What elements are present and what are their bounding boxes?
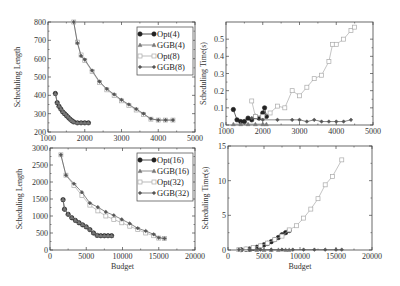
y-tick-label: 500: [34, 73, 46, 82]
x-tick-label: 15000: [326, 252, 346, 261]
legend-entry: GGB(4): [157, 40, 185, 50]
x-tick-label: 5000: [256, 252, 272, 261]
y-tick-label: 2500: [32, 161, 48, 170]
x-tick-label: 2000: [255, 127, 271, 136]
y-tick-label: 1000: [32, 212, 48, 221]
x-tick-label: 4000: [328, 127, 344, 136]
y-tick-label: 0.1: [214, 104, 224, 113]
chart-panel-3: 0500010000150002000005001000150020002500…: [15, 144, 205, 271]
y-tick-label: 10: [218, 177, 226, 186]
legend-entry: GGB(16): [157, 166, 189, 176]
y-tick-label: 200: [34, 128, 46, 137]
x-tick-label: 2000: [77, 134, 93, 143]
x-tick-label: 5000: [78, 252, 94, 261]
y-tick-label: 1500: [32, 195, 48, 204]
y-tick-label: 0: [44, 246, 48, 255]
legend-entry: GGB(8): [157, 62, 185, 72]
y-tick-label: 500: [36, 229, 48, 238]
y-tick-label: 0.4: [214, 52, 224, 61]
x-tick-label: 4000: [150, 134, 166, 143]
legend-entry: Opt(16): [157, 155, 184, 165]
x-tick-label: 20000: [185, 252, 205, 261]
y-tick-label: 700: [34, 36, 46, 45]
y-tick-label: 300: [34, 110, 46, 119]
x-tick-label: 5000: [187, 134, 203, 143]
x-axis-label: Budget: [111, 262, 135, 271]
legend-entry: Opt(8): [157, 51, 180, 61]
x-tick-label: 10000: [290, 252, 310, 261]
y-tick-label: 0.2: [214, 87, 224, 96]
y-axis-label: Scheduling Time(s): [201, 166, 210, 229]
y-axis-label: Scheduling Length: [13, 47, 22, 108]
x-tick-label: 3000: [114, 134, 130, 143]
legend-entry: Opt(32): [157, 177, 184, 187]
series-opt8: [250, 25, 357, 118]
x-tick-label: 0: [226, 252, 230, 261]
y-tick-label: 2000: [32, 178, 48, 187]
x-axis-label: Budget: [288, 262, 312, 271]
y-tick-label: 0.5: [214, 35, 224, 44]
chart-panel-2: 1000200030004000500000.10.20.30.40.5Sche…: [199, 22, 381, 136]
x-tick-label: 3000: [292, 127, 308, 136]
figure: 1000200030004000500020030040050060070080…: [0, 0, 400, 286]
y-tick-label: 5: [222, 211, 226, 220]
plot-frame: [228, 146, 372, 250]
y-tick-label: 0: [222, 246, 226, 255]
legend: Opt(4)GGB(4)Opt(8)GGB(8): [137, 27, 193, 75]
series-opt32: [237, 158, 344, 252]
x-tick-label: 15000: [149, 252, 169, 261]
y-tick-label: 400: [34, 91, 46, 100]
chart-panel-4: 05000100001500020000051015Scheduling Tim…: [201, 142, 382, 271]
legend-entry: Opt(4): [157, 29, 180, 39]
y-axis-label: Scheduling Length: [15, 169, 24, 230]
y-axis-label: Scheduling Time(s): [199, 42, 208, 105]
y-tick-label: 800: [34, 18, 46, 27]
x-tick-label: 5000: [365, 127, 381, 136]
legend-entry: GGB(32): [157, 188, 189, 198]
y-tick-label: 15: [218, 142, 226, 151]
y-tick-label: 0.3: [214, 70, 224, 79]
y-tick-label: 0: [220, 121, 224, 130]
y-tick-label: 600: [34, 55, 46, 64]
x-tick-label: 10000: [113, 252, 133, 261]
legend: Opt(16)GGB(16)Opt(32)GGB(32): [137, 153, 193, 201]
chart-panel-1: 1000200030004000500020030040050060070080…: [13, 18, 203, 143]
x-tick-label: 20000: [362, 252, 382, 261]
x-tick-label: 0: [48, 252, 52, 261]
plot-frame: [226, 22, 373, 125]
y-tick-label: 3000: [32, 144, 48, 153]
